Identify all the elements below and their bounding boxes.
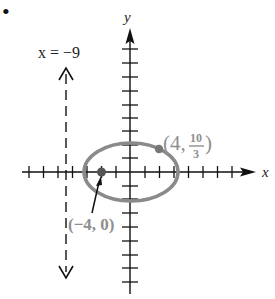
directrix-line [59, 68, 73, 278]
point-on-curve [155, 145, 163, 153]
focus-pointer-line [92, 182, 99, 213]
svg-text:(4,: (4, [163, 131, 186, 155]
y-axis-label: y [122, 9, 131, 25]
svg-text:3: 3 [193, 147, 199, 161]
x-axis-label: x [261, 164, 269, 180]
svg-text:): ) [205, 131, 212, 155]
y-axis [122, 28, 138, 294]
pointer-arrow-icon [96, 176, 102, 186]
directrix-label: x = −9 [38, 44, 80, 61]
x-axis [22, 166, 256, 178]
focus-point [97, 168, 106, 177]
ellipse-diagram: • x [0, 0, 275, 299]
bullet-marker: • [2, 0, 10, 24]
focus-label: (−4, 0) [68, 215, 115, 234]
svg-text:10: 10 [190, 131, 202, 145]
